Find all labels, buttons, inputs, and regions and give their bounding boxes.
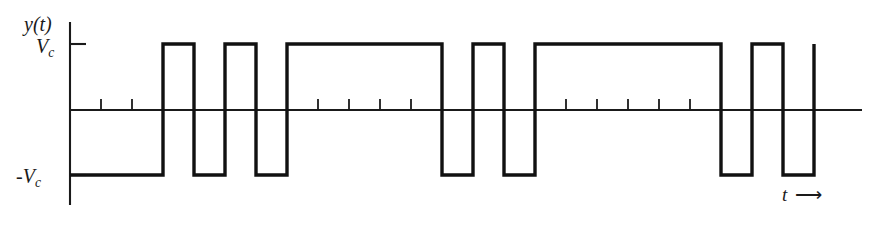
t-axis-symbol: t: [782, 184, 787, 205]
level-low-subscript: c: [35, 175, 41, 190]
level-low-label: -Vc: [16, 166, 41, 190]
waveform-figure: y(t) Vc -Vc t⟶: [0, 0, 875, 229]
level-low-symbol: -V: [16, 165, 35, 187]
level-high-label: Vc: [36, 36, 54, 60]
level-high-symbol: V: [36, 35, 48, 57]
t-axis-label: t⟶: [782, 185, 822, 204]
y-axis-label: y(t): [24, 14, 52, 34]
t-axis-arrow-icon: ⟶: [795, 184, 822, 205]
level-high-subscript: c: [48, 45, 54, 60]
waveform-plot: [0, 0, 875, 229]
time-tick-group: [101, 99, 814, 110]
